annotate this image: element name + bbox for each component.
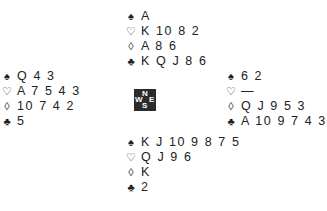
- east-spades: 6 2: [241, 69, 263, 84]
- west-hearts-row: ♡ A 7 5 4 3: [1, 84, 81, 99]
- compass-icon: N W E S: [134, 89, 156, 111]
- spade-icon: ♠: [225, 69, 237, 84]
- south-hearts: Q J 9 6: [141, 150, 193, 165]
- club-icon: ♣: [225, 114, 237, 129]
- east-diamonds-row: ◊ Q J 9 5 3: [225, 99, 327, 114]
- north-spades: A: [141, 9, 151, 24]
- west-clubs-row: ♣ 5: [1, 114, 81, 129]
- heart-icon: ♡: [125, 150, 137, 165]
- west-clubs: 5: [17, 114, 26, 129]
- south-spades: K J 10 9 8 7 5: [141, 135, 241, 150]
- north-hearts-row: ♡ K 10 8 2: [125, 24, 208, 39]
- north-hand: ♠ A ♡ K 10 8 2 ◊ A 8 6 ♣ K Q J 8 6: [125, 9, 208, 69]
- east-spades-row: ♠ 6 2: [225, 69, 327, 84]
- club-icon: ♣: [1, 114, 13, 129]
- club-icon: ♣: [125, 180, 137, 195]
- west-diamonds: 10 7 4 2: [17, 99, 75, 114]
- east-hand: ♠ 6 2 ♡ — ◊ Q J 9 5 3 ♣ A 10 9 7 4 3: [225, 69, 327, 129]
- west-spades: Q 4 3: [17, 69, 56, 84]
- east-hearts-row: ♡ —: [225, 84, 327, 99]
- spade-icon: ♠: [1, 69, 13, 84]
- heart-icon: ♡: [1, 84, 13, 99]
- spade-icon: ♠: [125, 135, 137, 150]
- compass-east: E: [149, 96, 154, 104]
- east-clubs: A 10 9 7 4 3: [241, 114, 327, 129]
- diamond-icon: ◊: [1, 99, 13, 114]
- spade-icon: ♠: [125, 9, 137, 24]
- diamond-icon: ◊: [125, 165, 137, 180]
- diamond-icon: ◊: [225, 99, 237, 114]
- east-diamonds: Q J 9 5 3: [241, 99, 306, 114]
- south-hand: ♠ K J 10 9 8 7 5 ♡ Q J 9 6 ◊ K ♣ 2: [125, 135, 241, 195]
- north-clubs-row: ♣ K Q J 8 6: [125, 54, 208, 69]
- diamond-icon: ◊: [125, 39, 137, 54]
- south-spades-row: ♠ K J 10 9 8 7 5: [125, 135, 241, 150]
- club-icon: ♣: [125, 54, 137, 69]
- north-diamonds-row: ◊ A 8 6: [125, 39, 208, 54]
- east-hearts: —: [241, 84, 255, 99]
- south-diamonds: K: [141, 165, 151, 180]
- north-clubs: K Q J 8 6: [141, 54, 208, 69]
- west-hearts: A 7 5 4 3: [17, 84, 81, 99]
- east-clubs-row: ♣ A 10 9 7 4 3: [225, 114, 327, 129]
- west-diamonds-row: ◊ 10 7 4 2: [1, 99, 81, 114]
- west-spades-row: ♠ Q 4 3: [1, 69, 81, 84]
- compass-south: S: [142, 102, 147, 110]
- north-spades-row: ♠ A: [125, 9, 208, 24]
- south-clubs: 2: [141, 180, 150, 195]
- south-diamonds-row: ◊ K: [125, 165, 241, 180]
- west-hand: ♠ Q 4 3 ♡ A 7 5 4 3 ◊ 10 7 4 2 ♣ 5: [1, 69, 81, 129]
- south-hearts-row: ♡ Q J 9 6: [125, 150, 241, 165]
- heart-icon: ♡: [125, 24, 137, 39]
- south-clubs-row: ♣ 2: [125, 180, 241, 195]
- heart-icon: ♡: [225, 84, 237, 99]
- north-diamonds: A 8 6: [141, 39, 178, 54]
- north-hearts: K 10 8 2: [141, 24, 200, 39]
